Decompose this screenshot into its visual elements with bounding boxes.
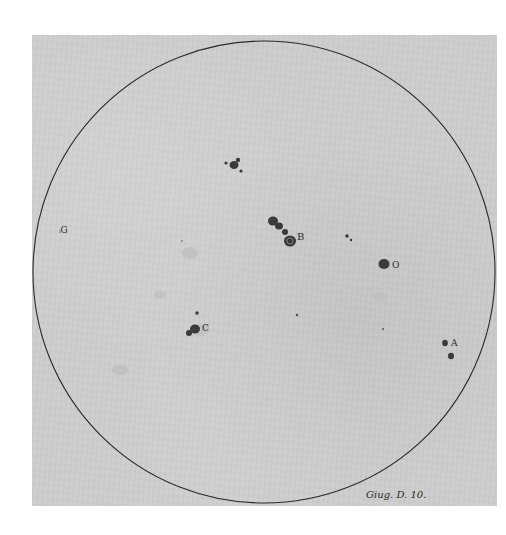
sunspot-o bbox=[379, 259, 390, 269]
sun-disk-outline bbox=[33, 41, 495, 503]
label-g-letter: G bbox=[61, 225, 68, 235]
label-g: iG bbox=[59, 225, 68, 235]
sunspot-small-pair bbox=[345, 234, 352, 241]
sunspot-group-b bbox=[268, 217, 296, 247]
sunspot-group-top bbox=[224, 158, 242, 173]
sun-disk-drawing: B O C A iG Giug. D. 10. bbox=[0, 0, 506, 535]
sunspot-group-c bbox=[186, 311, 200, 336]
faculae bbox=[112, 247, 387, 375]
label-o: O bbox=[392, 260, 399, 270]
plate-caption: Giug. D. 10. bbox=[366, 489, 426, 500]
label-b: B bbox=[297, 231, 304, 242]
small-specks bbox=[181, 240, 384, 330]
label-c: C bbox=[202, 323, 209, 333]
label-a: A bbox=[450, 338, 458, 348]
